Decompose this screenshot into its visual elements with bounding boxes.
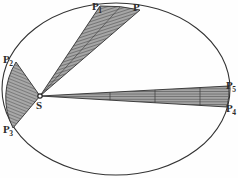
sun-focus-marker (38, 94, 42, 98)
point-label-P3: P3 (3, 124, 13, 135)
orbit-diagram-canvas (0, 0, 238, 178)
point-label-P5: P5 (226, 80, 236, 91)
swept-area-P2-P3 (6, 62, 40, 128)
swept-area-P5-P4 (40, 78, 229, 112)
point-label-P2: P2 (3, 54, 13, 65)
point-label-P1: P1 (92, 1, 102, 12)
point-label-P4: P4 (226, 103, 236, 114)
swept-area-P1-P (40, 6, 140, 96)
point-label-P: P (133, 2, 140, 13)
kepler-equal-areas-figure: P1 P P2 P3 P5 P4 S (0, 0, 238, 178)
focus-label-S: S (36, 100, 42, 111)
